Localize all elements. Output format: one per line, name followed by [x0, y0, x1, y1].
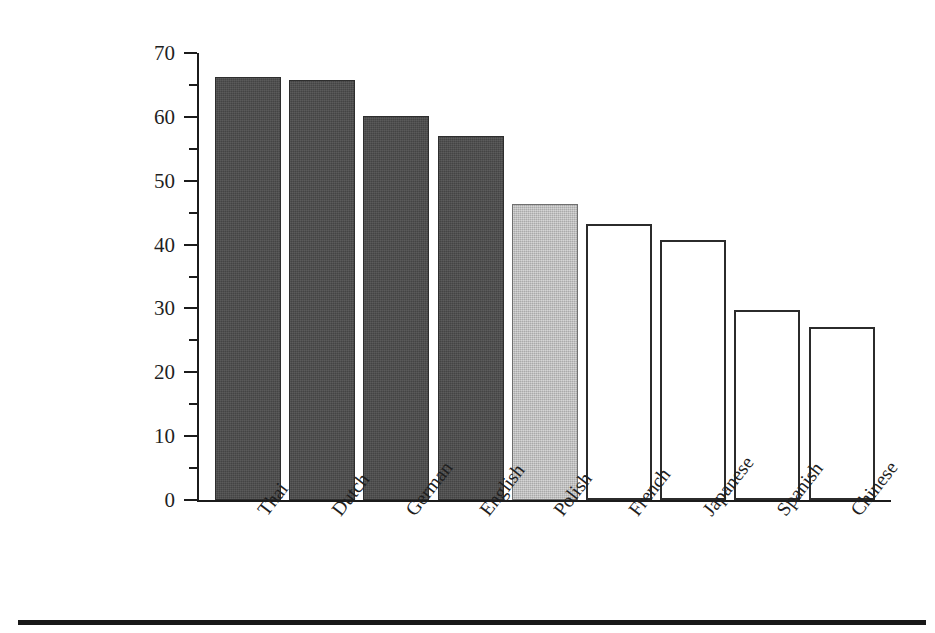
y-tick-minor: [189, 403, 197, 405]
bar-chart-figure: Vowel length Pairwise Variability Index …: [0, 0, 935, 633]
y-tick-minor: [189, 212, 197, 214]
bar-japanese: [660, 240, 726, 500]
y-tick-minor: [189, 148, 197, 150]
y-tick-minor: [189, 339, 197, 341]
y-tick-label: 40: [154, 234, 175, 255]
y-tick-major: 40: [184, 244, 197, 246]
y-tick-major: 30: [184, 307, 197, 309]
bar-dutch: [289, 80, 355, 500]
y-tick-major: 60: [184, 116, 197, 118]
bar-thai: [215, 77, 281, 500]
bar-english: [438, 136, 504, 500]
y-tick-label: 20: [154, 362, 175, 383]
bar-polish: [512, 204, 578, 500]
plot-area: 010203040506070 ThaiDutchGermanEnglishPo…: [197, 53, 897, 500]
y-tick-label: 0: [165, 490, 176, 511]
y-tick-minor: [189, 84, 197, 86]
y-tick-label: 30: [154, 298, 175, 319]
bottom-divider-rule: [18, 620, 926, 625]
y-tick-label: 70: [154, 43, 175, 64]
y-tick-major: 70: [184, 52, 197, 54]
bar-german: [363, 116, 429, 500]
y-tick-major: 10: [184, 435, 197, 437]
y-tick-label: 10: [154, 426, 175, 447]
y-axis-label-group: Vowel length Pairwise Variability Index: [44, 40, 134, 510]
y-tick-minor: [189, 467, 197, 469]
y-tick-label: 60: [154, 106, 175, 127]
y-tick-major: 20: [184, 371, 197, 373]
y-tick-label: 50: [154, 170, 175, 191]
y-tick-major: 0: [184, 499, 197, 501]
y-axis-line: [197, 53, 199, 501]
y-tick-minor: [189, 276, 197, 278]
y-tick-major: 50: [184, 180, 197, 182]
bar-french: [586, 224, 652, 500]
